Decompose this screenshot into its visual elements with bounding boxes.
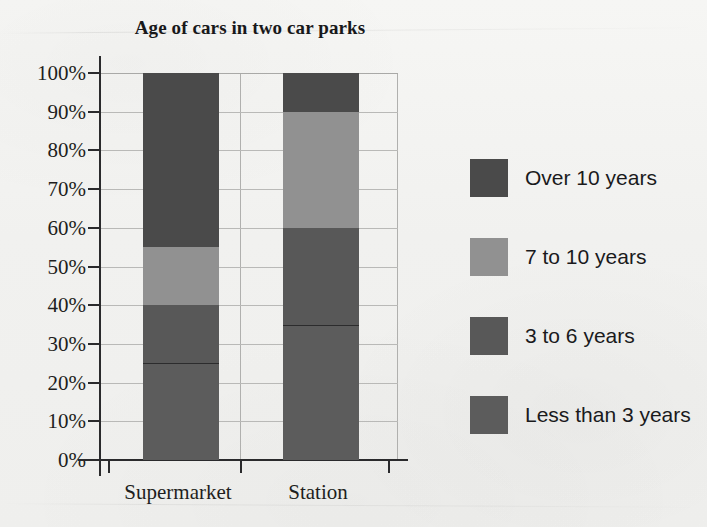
bar-segment — [143, 363, 219, 460]
y-axis-tick — [88, 420, 100, 422]
bar-segment — [143, 247, 219, 305]
y-axis-tick-label: 60% — [8, 215, 86, 240]
legend-color-swatch — [470, 238, 508, 276]
x-axis-category-label: Supermarket — [124, 480, 231, 505]
bar-segment-divider — [283, 325, 359, 326]
bar-segment-divider — [143, 363, 219, 364]
y-axis-tick-label: 30% — [8, 331, 86, 356]
y-axis-tick — [88, 266, 100, 268]
legend-item: Less than 3 years — [470, 395, 691, 435]
legend-color-swatch — [470, 396, 508, 434]
legend-item-label: Less than 3 years — [525, 403, 691, 427]
y-axis-tick — [88, 188, 100, 190]
bar-segment — [283, 73, 359, 112]
y-axis-tick-label: 80% — [8, 138, 86, 163]
y-axis-tick — [88, 72, 100, 74]
x-axis-tick — [388, 460, 390, 473]
x-axis-tick — [108, 460, 110, 473]
y-axis-tick — [88, 459, 100, 461]
y-axis-tick-label: 100% — [8, 61, 86, 86]
bar-segment — [143, 73, 219, 247]
legend-color-swatch — [470, 159, 508, 197]
y-axis-label-group: 100%90%80%70%60%50%40%30%20%10%0% — [0, 0, 86, 527]
legend-color-swatch — [470, 317, 508, 355]
y-axis-tick — [88, 382, 100, 384]
bar-segment — [143, 305, 219, 363]
y-axis-tick-label: 70% — [8, 177, 86, 202]
y-axis-tick — [88, 304, 100, 306]
x-axis-category-label: Station — [288, 480, 348, 505]
y-axis-tick — [88, 227, 100, 229]
y-axis-tick-label: 10% — [8, 409, 86, 434]
legend-item: 3 to 6 years — [470, 316, 635, 356]
legend-item-label: 7 to 10 years — [525, 245, 646, 269]
y-axis-tick — [88, 111, 100, 113]
y-axis-tick-label: 50% — [8, 254, 86, 279]
legend-item: Over 10 years — [470, 158, 657, 198]
scan-artifact-line-bottom — [0, 503, 707, 508]
legend-item-label: 3 to 6 years — [525, 324, 635, 348]
y-axis-tick — [88, 149, 100, 151]
y-axis-tick-label: 90% — [8, 99, 86, 124]
x-axis-tick — [240, 460, 242, 473]
bar-segment — [283, 112, 359, 228]
stacked-bar — [143, 73, 219, 460]
stacked-bar — [283, 73, 359, 460]
y-axis-tick-label: 0% — [8, 448, 86, 473]
legend-item-label: Over 10 years — [525, 166, 657, 190]
bar-segment — [283, 228, 359, 325]
legend-item: 7 to 10 years — [470, 237, 646, 277]
y-axis-tick — [88, 343, 100, 345]
y-axis-tick-label: 40% — [8, 293, 86, 318]
bar-segment — [283, 325, 359, 460]
y-axis-tick-label: 20% — [8, 370, 86, 395]
chart-title: Age of cars in two car parks — [95, 17, 405, 39]
